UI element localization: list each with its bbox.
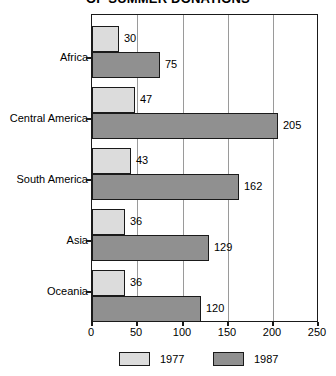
x-tick-label-100: 100 (173, 327, 191, 338)
gridline-150 (228, 15, 229, 321)
bar-africa-1987[interactable] (92, 52, 160, 78)
x-tick-label-150: 150 (218, 327, 236, 338)
legend-label-1977: 1977 (160, 354, 184, 365)
gridline-200 (273, 15, 274, 321)
category-label-africa: Africa (2, 52, 88, 63)
value-label-central-america-1977: 47 (140, 94, 152, 105)
category-label-south-america: South America (2, 174, 88, 185)
value-label-oceania-1977: 36 (130, 277, 142, 288)
gridline-100 (183, 15, 184, 321)
bar-asia-1987[interactable] (92, 235, 209, 261)
category-axis: Africa Central America South America Asi… (0, 14, 88, 322)
bar-africa-1977[interactable] (92, 26, 119, 52)
x-tick-label-50: 50 (130, 327, 142, 338)
plot-area: 30 75 47 205 43 162 36 129 36 120 (91, 14, 318, 322)
x-tick-label-200: 200 (263, 327, 281, 338)
x-tick-label-250: 250 (308, 327, 326, 338)
x-tick-label-0: 0 (88, 327, 94, 338)
legend-swatch-1987 (213, 352, 244, 366)
value-label-south-america-1977: 43 (136, 155, 148, 166)
legend-item-1977[interactable]: 1977 (119, 352, 184, 366)
bar-south-america-1987[interactable] (92, 174, 239, 200)
bar-asia-1977[interactable] (92, 209, 125, 235)
legend-label-1987: 1987 (254, 354, 278, 365)
x-axis: 0 50 100 150 200 250 (91, 322, 318, 342)
value-label-africa-1977: 30 (124, 33, 136, 44)
bar-south-america-1977[interactable] (92, 148, 131, 174)
chart-title: OF SUMMER DONATIONS (0, 0, 336, 6)
bar-oceania-1977[interactable] (92, 270, 125, 296)
bar-central-america-1977[interactable] (92, 87, 135, 113)
category-label-asia: Asia (2, 235, 88, 246)
value-label-asia-1977: 36 (130, 216, 142, 227)
value-label-asia-1987: 129 (214, 242, 232, 253)
bar-central-america-1987[interactable] (92, 113, 278, 139)
bar-oceania-1987[interactable] (92, 296, 201, 322)
value-label-oceania-1987: 120 (206, 303, 224, 314)
legend-swatch-1977 (119, 352, 150, 366)
value-label-africa-1987: 75 (165, 59, 177, 70)
chart-legend: 1977 1987 (0, 352, 336, 372)
value-label-central-america-1987: 205 (283, 120, 301, 131)
category-label-central-america: Central America (2, 113, 88, 124)
value-label-south-america-1987: 162 (244, 181, 262, 192)
category-label-oceania: Oceania (2, 286, 88, 297)
legend-item-1987[interactable]: 1987 (213, 352, 278, 366)
